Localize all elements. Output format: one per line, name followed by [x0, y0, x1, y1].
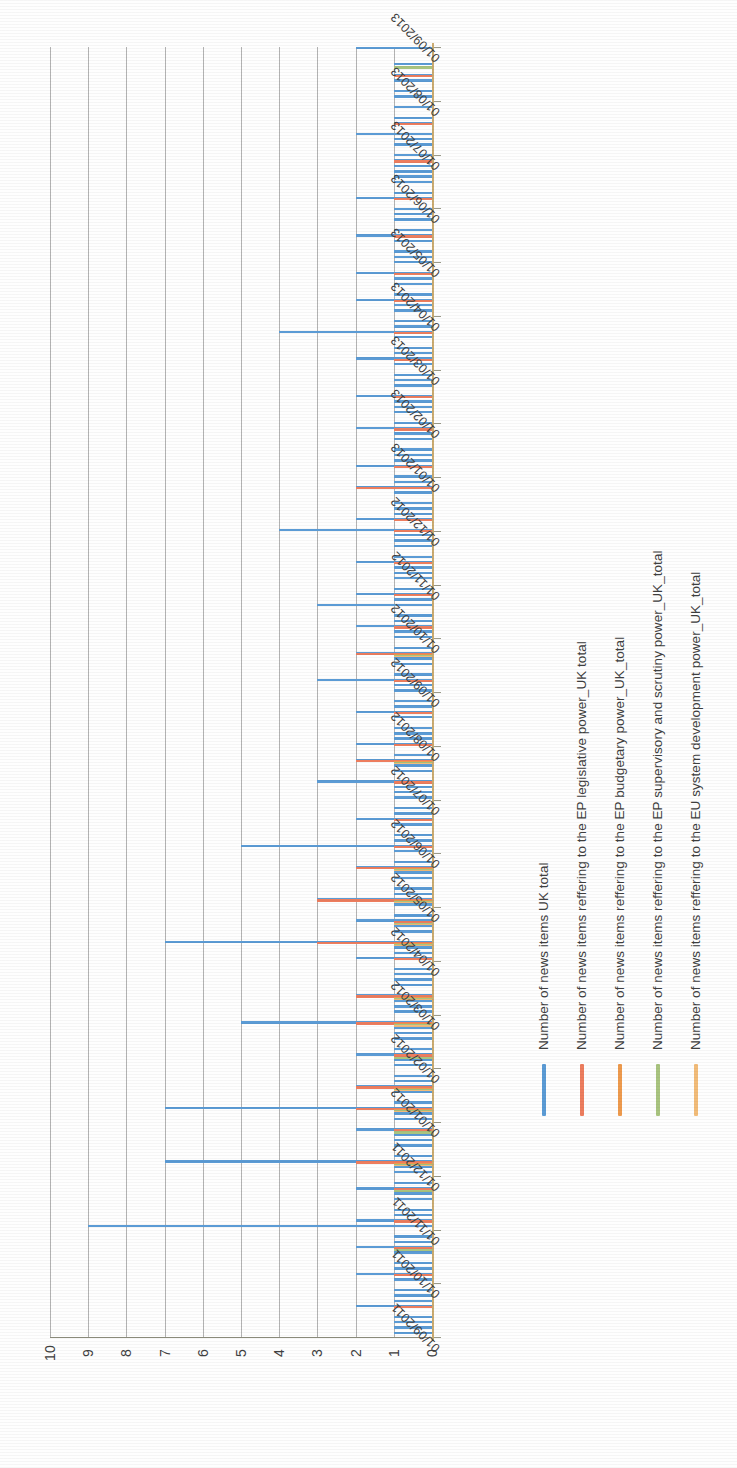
legend-swatch-icon	[580, 1064, 584, 1116]
bar	[394, 1080, 432, 1082]
value-tick-2: 2	[348, 1338, 364, 1368]
value-axis-tick-labels: 109876543210	[50, 1345, 432, 1405]
bar	[394, 973, 432, 975]
chart-page: 109876543210 01/09/201101/10/201101/11/2…	[0, 0, 737, 1468]
legend-label: Number of news items UK total	[536, 862, 551, 1050]
gridline-7	[165, 47, 166, 1337]
bar	[394, 277, 432, 279]
bar	[394, 598, 432, 600]
legend-item[interactable]: Number of news items reffering to the EP…	[605, 0, 643, 1468]
legend-item[interactable]: Number of news items reffering to the EP…	[567, 0, 605, 1468]
gridline-3	[317, 47, 318, 1337]
legend-label: Number of news items reffering to the EP…	[612, 637, 627, 1050]
chart-legend: Number of news items UK totalNumber of n…	[529, 0, 737, 1468]
bar	[394, 545, 432, 547]
bar	[394, 438, 432, 440]
gridline-2	[356, 47, 357, 1337]
legend-item[interactable]: Number of news items reffering to the EU…	[681, 0, 719, 1468]
value-tick-10: 10	[42, 1338, 58, 1368]
gridline-4	[279, 47, 280, 1337]
bar	[356, 487, 432, 489]
bar	[394, 705, 432, 707]
value-tick-8: 8	[118, 1338, 134, 1368]
legend-swatch-icon	[656, 1064, 660, 1116]
gridline-8	[126, 47, 127, 1337]
bar	[394, 117, 432, 119]
gridline-9	[88, 47, 89, 1337]
legend-swatch-icon	[618, 1064, 622, 1116]
legend-label: Number of news items reffering to the EU…	[688, 572, 703, 1050]
plot-area	[50, 47, 432, 1337]
value-tick-1: 1	[386, 1338, 402, 1368]
value-tick-4: 4	[271, 1338, 287, 1368]
value-tick-5: 5	[233, 1338, 249, 1368]
bar	[394, 491, 432, 493]
legend-item[interactable]: Number of news items UK total	[529, 0, 567, 1468]
legend-swatch-icon	[542, 1064, 546, 1116]
bar	[394, 384, 432, 386]
legend-swatch-icon	[694, 1064, 698, 1116]
legend-label: Number of news items reffering to the EP…	[650, 551, 665, 1051]
legend-label: Number of news items reffering to the EP…	[574, 641, 589, 1050]
value-tick-6: 6	[195, 1338, 211, 1368]
gridline-10	[50, 47, 51, 1337]
value-tick-7: 7	[157, 1338, 173, 1368]
bar	[394, 812, 432, 814]
value-tick-3: 3	[309, 1338, 325, 1368]
legend-item[interactable]: Number of news items reffering to the EP…	[643, 0, 681, 1468]
gridline-6	[203, 47, 204, 1337]
bar	[88, 1225, 432, 1227]
bar	[317, 604, 432, 606]
gridline-5	[241, 47, 242, 1337]
value-tick-9: 9	[80, 1338, 96, 1368]
